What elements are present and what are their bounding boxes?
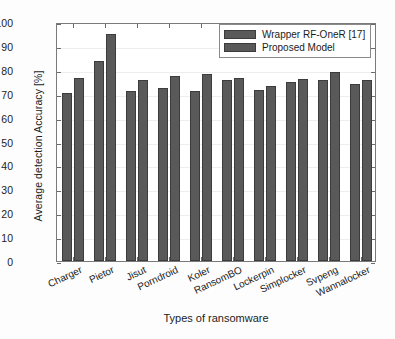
y-tick-mark [57, 96, 61, 97]
y-tick-mark [57, 215, 61, 216]
x-tick-mark [137, 24, 138, 28]
gridline [57, 72, 375, 73]
bar [286, 82, 297, 261]
y-tick-label: 100 [0, 17, 13, 29]
legend-item: Proposed Model [224, 41, 365, 54]
bar [190, 91, 201, 261]
plot-area [56, 23, 376, 262]
y-tick-mark [57, 120, 61, 121]
bar [234, 78, 245, 261]
x-axis-tick-labels: ChargerPietorJisutPorndroidKolerRansomBO… [56, 264, 376, 308]
bar [106, 34, 117, 261]
x-tick-label: Pietor [87, 264, 115, 285]
bar [362, 80, 373, 261]
y-tick-mark [57, 191, 61, 192]
bar [62, 93, 73, 261]
legend-label-proposed-model: Proposed Model [262, 42, 335, 53]
y-tick-mark [371, 24, 375, 25]
y-tick-mark [57, 48, 61, 49]
y-axis-title: Average detection Accuracy [%] [32, 26, 44, 266]
legend-swatch-proposed-model [224, 43, 256, 52]
bar [94, 61, 105, 261]
y-tick-label: 20 [0, 208, 13, 220]
x-tick-mark [201, 24, 202, 28]
x-tick-mark [73, 24, 74, 28]
y-tick-label: 30 [0, 184, 13, 196]
x-tick-mark [105, 24, 106, 28]
x-axis-title: Types of ransomware [56, 312, 376, 324]
bar [170, 76, 181, 261]
y-tick-mark [57, 72, 61, 73]
bar [158, 88, 169, 261]
y-tick-label: 40 [0, 160, 13, 172]
bar [350, 84, 361, 261]
y-tick-mark [371, 48, 375, 49]
y-tick-label: 10 [0, 232, 13, 244]
chart-figure: Average detection Accuracy [%] 010203040… [0, 0, 395, 339]
x-tick-label: Charger [46, 264, 83, 289]
bar [254, 90, 265, 261]
bar [222, 80, 233, 261]
y-tick-mark [57, 144, 61, 145]
legend-item: Wrapper RF-OneR [17] [224, 28, 365, 41]
y-tick-mark [57, 24, 61, 25]
legend-label-wrapper-rf-oner: Wrapper RF-OneR [17] [262, 29, 365, 40]
y-tick-label: 80 [0, 65, 13, 77]
bar [74, 78, 85, 261]
y-tick-label: 50 [0, 137, 13, 149]
y-tick-label: 0 [0, 256, 13, 268]
bar [298, 79, 309, 261]
y-tick-label: 90 [0, 41, 13, 53]
bar [266, 86, 277, 261]
chart-legend: Wrapper RF-OneR [17] Proposed Model [219, 24, 371, 58]
bar [138, 80, 149, 261]
legend-swatch-wrapper-rf-oner [224, 30, 256, 39]
bar [126, 91, 137, 261]
y-tick-mark [57, 239, 61, 240]
x-tick-mark [169, 24, 170, 28]
y-tick-label: 60 [0, 113, 13, 125]
bar [202, 74, 213, 261]
bar [318, 80, 329, 261]
y-tick-mark [371, 72, 375, 73]
bar [330, 72, 341, 261]
y-tick-mark [57, 167, 61, 168]
y-tick-label: 70 [0, 89, 13, 101]
